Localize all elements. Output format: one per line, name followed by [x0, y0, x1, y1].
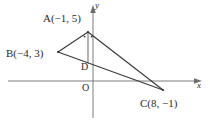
x-axis-label: x: [197, 81, 201, 90]
diagram-canvas: [0, 0, 210, 124]
coordinate-plane-triangle-diagram: A(−1, 5) B(−4, 3) C(8, −1) D O y x: [0, 0, 210, 124]
segment-BC: [58, 52, 163, 90]
y-axis-label: y: [95, 1, 99, 10]
vertex-dot-c: [162, 89, 164, 91]
segment-AB: [58, 32, 88, 52]
angle-tick-left-icon: [84, 36, 86, 38]
vertex-dot-a: [87, 31, 89, 33]
angle-tick-right-icon: [91, 36, 93, 38]
vertex-dot-b: [57, 51, 59, 53]
point-label-b: B(−4, 3): [6, 48, 43, 59]
point-label-a: A(−1, 5): [43, 13, 81, 24]
point-label-c: C(8, −1): [140, 98, 177, 109]
origin-label: O: [82, 83, 89, 93]
point-label-d: D: [81, 62, 88, 72]
